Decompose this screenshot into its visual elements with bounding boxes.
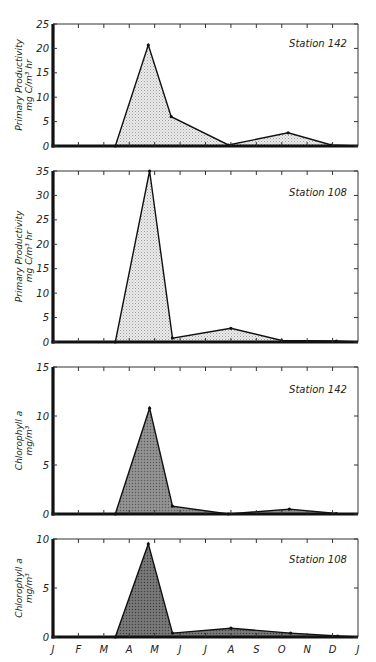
y-tick-label: 5 — [43, 116, 49, 127]
y-tick-label: 30 — [36, 190, 49, 201]
month-label: J — [50, 644, 55, 655]
y-tick-label: 25 — [36, 214, 49, 225]
station-label: Station 142 — [289, 384, 347, 395]
y-tick-label: 10 — [36, 92, 49, 103]
data-point — [147, 542, 150, 545]
y-tick-label: 5 — [43, 583, 49, 594]
chart-panel-2: 05101520253035Station 108Primary Product… — [14, 166, 358, 348]
y-axis-title: Chlorophyll amg/m³ — [14, 411, 34, 470]
y-tick-label: 15 — [36, 263, 49, 274]
station-label: Station 108 — [289, 187, 347, 198]
month-label: A — [125, 644, 133, 655]
y-axis-title-line2: mg/m³ — [24, 425, 34, 455]
month-label: S — [253, 644, 260, 655]
month-label: O — [278, 644, 286, 655]
y-tick-label: 15 — [36, 362, 49, 373]
month-label: A — [226, 644, 234, 655]
y-axis-title-line2: mg C/m³ hr — [24, 230, 34, 283]
station-label: Station 108 — [289, 554, 347, 565]
y-axis-title-line2: mg/m³ — [24, 573, 34, 603]
data-point — [147, 43, 150, 46]
y-axis-title: Primary Productivitymg C/m³ hr — [14, 210, 34, 302]
y-tick-label: 15 — [36, 67, 49, 78]
y-tick-label: 0 — [43, 632, 49, 643]
chart-panel-3: 051015Station 142Chlorophyll amg/m³ — [14, 362, 358, 520]
data-area — [53, 408, 358, 514]
y-axis-title: Primary Productivitymg C/m³ hr — [14, 39, 34, 131]
y-axis-title-line1: Primary Productivity — [14, 210, 24, 302]
month-axis: JFMAMJJASONDJ — [50, 644, 360, 655]
data-point — [287, 131, 290, 134]
chart-panel-4: 0510Station 108Chlorophyll amg/m³ — [14, 534, 358, 643]
y-tick-label: 25 — [36, 19, 49, 30]
y-tick-label: 10 — [36, 411, 49, 422]
data-point — [229, 627, 232, 630]
y-axis-title-line1: Primary Productivity — [14, 39, 24, 131]
chart-canvas: 0510152025Station 142Primary Productivit… — [0, 0, 376, 662]
y-axis-title-line1: Chlorophyll a — [14, 558, 24, 617]
y-axis-title-line1: Chlorophyll a — [14, 411, 24, 470]
chart-panel-1: 0510152025Station 142Primary Productivit… — [14, 19, 358, 152]
data-point — [288, 508, 291, 511]
station-label: Station 142 — [289, 38, 347, 49]
data-point — [171, 336, 174, 339]
y-axis-title-line2: mg C/m³ hr — [24, 58, 34, 111]
month-label: J — [202, 644, 207, 655]
figure-container: 0510152025Station 142Primary Productivit… — [0, 0, 376, 662]
y-tick-label: 10 — [36, 288, 49, 299]
y-tick-label: 5 — [43, 312, 49, 323]
y-tick-label: 0 — [43, 509, 49, 520]
y-tick-label: 35 — [36, 166, 49, 177]
month-label: J — [177, 644, 182, 655]
month-label: J — [355, 644, 360, 655]
data-point — [171, 505, 174, 508]
y-tick-label: 10 — [36, 534, 49, 545]
month-label: N — [303, 644, 311, 655]
month-label: M — [100, 644, 109, 655]
y-tick-label: 0 — [43, 337, 49, 348]
y-tick-label: 5 — [43, 460, 49, 471]
data-point — [170, 115, 173, 118]
data-point — [148, 169, 151, 172]
month-label: D — [329, 644, 337, 655]
data-area — [53, 45, 358, 146]
y-tick-label: 0 — [43, 141, 49, 152]
month-label: M — [150, 644, 159, 655]
data-point — [289, 631, 292, 634]
y-axis-title: Chlorophyll amg/m³ — [14, 558, 34, 617]
y-tick-label: 20 — [36, 239, 49, 250]
y-tick-label: 20 — [36, 43, 49, 54]
data-point — [229, 327, 232, 330]
data-point — [148, 407, 151, 410]
data-point — [171, 631, 174, 634]
month-label: F — [76, 644, 82, 655]
